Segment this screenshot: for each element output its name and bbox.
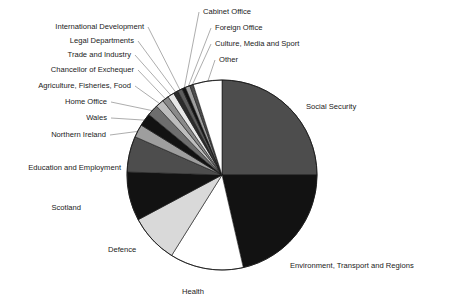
pie-label-cabinet-office: Cabinet Office [203,7,251,16]
pie-slice-group [127,80,317,270]
pie-label-northern-ireland: Northern Ireland [51,130,106,139]
pie-label-agriculture-fisheries-food: Agriculture, Fisheries, Food [38,81,131,90]
pie-label-health: Health [182,287,204,296]
pie-label-home-office: Home Office [65,97,107,106]
pie-label-foreign-office: Foreign Office [215,23,263,32]
pie-label-scotland: Scotland [51,203,81,212]
pie-chart-container: Social SecurityEnvironment, Transport an… [0,0,449,305]
pie-label-environment-transport-and-regions: Environment, Transport and Regions [290,261,414,270]
pie-slice-social-security[interactable] [222,80,317,175]
leader-line-agriculture-fisheries-food [135,86,160,104]
pie-label-social-security: Social Security [306,102,356,111]
pie-label-other: Other [219,55,238,64]
pie-label-legal-departments: Legal Departments [70,36,134,45]
leader-line-wales [111,118,146,120]
pie-chart-svg: Social SecurityEnvironment, Transport an… [0,0,449,305]
pie-label-education-and-employment: Education and Employment [28,163,122,172]
pie-label-culture-media-and-sport: Culture, Media and Sport [215,39,300,48]
pie-label-defence: Defence [108,245,136,254]
leader-line-northern-ireland [110,131,139,135]
leader-line-home-office [111,102,153,111]
leader-line-other [208,60,215,82]
pie-label-chancellor-of-exchequer: Chancellor of Exchequer [51,65,135,74]
pie-label-international-development: International Development [55,22,145,31]
leader-line-legal-departments [138,41,176,93]
pie-label-wales: Wales [86,113,107,122]
leader-line-foreign-office [188,28,211,87]
pie-label-trade-and-industry: Trade and Industry [68,50,132,59]
leader-line-international-development [148,27,180,91]
